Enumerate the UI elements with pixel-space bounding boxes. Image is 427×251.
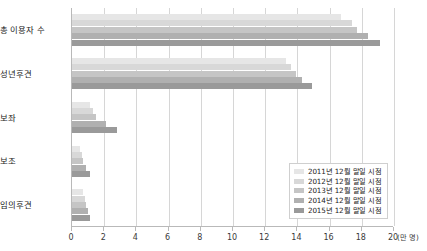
value-axis-tick-label: 12 bbox=[259, 234, 269, 242]
bar bbox=[72, 71, 296, 77]
value-axis-tick-label: 16 bbox=[324, 234, 334, 242]
value-axis-tick-label: 2 bbox=[101, 234, 106, 242]
bar bbox=[72, 64, 291, 70]
bar bbox=[72, 171, 90, 177]
bar bbox=[72, 127, 117, 133]
value-axis-tick-mark bbox=[361, 227, 362, 231]
bar-group bbox=[72, 102, 393, 134]
bar bbox=[72, 114, 96, 120]
legend-item[interactable]: 2013년 12월 말일 시점 bbox=[294, 186, 382, 196]
bar bbox=[72, 102, 90, 108]
legend-swatch-icon bbox=[294, 169, 304, 174]
value-axis-tick-mark bbox=[393, 227, 394, 231]
category-label: 보좌 bbox=[0, 114, 60, 122]
bar bbox=[72, 146, 80, 152]
bar bbox=[72, 165, 86, 171]
value-axis-unit-label: (만 명) bbox=[397, 234, 419, 241]
bar bbox=[72, 196, 85, 202]
category-label: 총 이용자 수 bbox=[0, 26, 60, 34]
value-axis-tick-mark bbox=[329, 227, 330, 231]
bar bbox=[72, 58, 286, 64]
value-axis-tick-label: 10 bbox=[227, 234, 237, 242]
bar bbox=[72, 121, 106, 127]
value-axis-tick-label: 14 bbox=[291, 234, 301, 242]
bar-group bbox=[72, 58, 393, 90]
legend-item[interactable]: 2014년 12월 말일 시점 bbox=[294, 196, 382, 206]
legend-label: 2014년 12월 말일 시점 bbox=[308, 197, 382, 204]
bar bbox=[72, 20, 352, 26]
legend-item[interactable]: 2015년 12월 말일 시점 bbox=[294, 205, 382, 215]
legend-swatch-icon bbox=[294, 188, 304, 193]
category-label: 임의후견 bbox=[0, 201, 60, 209]
value-axis-tick-label: 0 bbox=[68, 234, 73, 242]
bar-group bbox=[72, 14, 393, 46]
value-axis-tick-label: 8 bbox=[197, 234, 202, 242]
bar bbox=[72, 208, 88, 214]
value-axis-tick-mark bbox=[135, 227, 136, 231]
legend-swatch-icon bbox=[294, 179, 304, 184]
value-axis-tick-label: 4 bbox=[133, 234, 138, 242]
value-axis-tick-label: 18 bbox=[356, 234, 366, 242]
legend-item[interactable]: 2012년 12월 말일 시점 bbox=[294, 177, 382, 187]
chart-legend: 2011년 12월 말일 시점2012년 12월 말일 시점2013년 12월 … bbox=[289, 163, 388, 219]
legend-item[interactable]: 2011년 12월 말일 시점 bbox=[294, 167, 382, 177]
value-axis-tick-mark bbox=[71, 227, 72, 231]
bar bbox=[72, 158, 83, 164]
value-axis-ticks: 02468101214161820 bbox=[71, 227, 393, 251]
legend-label: 2013년 12월 말일 시점 bbox=[308, 187, 382, 194]
legend-swatch-icon bbox=[294, 198, 304, 203]
bar bbox=[72, 83, 312, 89]
legend-swatch-icon bbox=[294, 208, 304, 213]
bar bbox=[72, 27, 357, 33]
bar bbox=[72, 108, 93, 114]
category-label: 성년후견 bbox=[0, 70, 60, 78]
value-axis-tick-mark bbox=[232, 227, 233, 231]
value-axis-tick-mark bbox=[168, 227, 169, 231]
bar bbox=[72, 215, 90, 221]
bar bbox=[72, 40, 380, 46]
legend-label: 2012년 12월 말일 시점 bbox=[308, 178, 382, 185]
bar bbox=[72, 152, 82, 158]
bar bbox=[72, 189, 83, 195]
bar-chart: 총 이용자 수성년후견보좌보조임의후견 02468101214161820 (만… bbox=[0, 0, 427, 251]
value-axis-tick-label: 6 bbox=[165, 234, 170, 242]
legend-label: 2015년 12월 말일 시점 bbox=[308, 207, 382, 214]
category-axis-labels: 총 이용자 수성년후견보좌보조임의후견 bbox=[0, 8, 66, 227]
legend-label: 2011년 12월 말일 시점 bbox=[308, 168, 382, 175]
gridline bbox=[394, 8, 395, 226]
bar bbox=[72, 33, 368, 39]
bar bbox=[72, 202, 86, 208]
value-axis-tick-mark bbox=[200, 227, 201, 231]
value-axis-tick-mark bbox=[103, 227, 104, 231]
value-axis-tick-mark bbox=[296, 227, 297, 231]
category-label: 보조 bbox=[0, 157, 60, 165]
value-axis-tick-mark bbox=[264, 227, 265, 231]
bar bbox=[72, 77, 302, 83]
bar bbox=[72, 14, 341, 20]
